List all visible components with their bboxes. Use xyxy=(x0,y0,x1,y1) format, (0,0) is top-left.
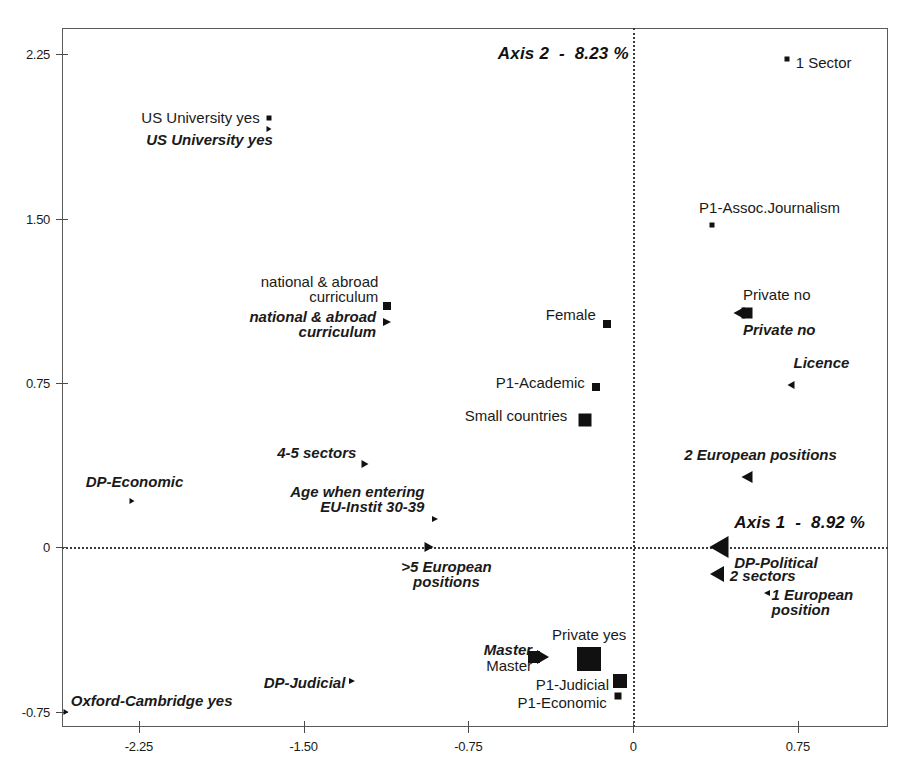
axis-title: Axis 2 - 8.23 % xyxy=(498,44,629,64)
data-point-label: 1 Sector xyxy=(796,55,852,70)
data-point-label: Oxford-Cambridge yes xyxy=(71,693,233,708)
horizontal-zero-axis-line xyxy=(62,547,888,549)
data-point-label: US University yes xyxy=(141,110,259,125)
data-point-square-marker xyxy=(784,56,789,61)
data-point-label: national & abroad curriculum xyxy=(261,273,379,304)
vertical-zero-axis-line xyxy=(633,28,635,727)
data-point-triangle-right-marker xyxy=(424,542,433,552)
data-point-label: Age when entering EU-Instit 30-39 xyxy=(290,484,424,515)
data-point-label: DP-Judicial xyxy=(264,676,346,691)
x-axis-tick-label: -1.50 xyxy=(290,739,318,754)
data-point-label: Licence xyxy=(794,356,850,371)
data-point-label: Master xyxy=(484,643,532,658)
y-axis-tick xyxy=(56,383,68,384)
data-point-triangle-left-marker xyxy=(788,381,795,389)
data-point-label: Master xyxy=(486,658,532,673)
y-axis-tick xyxy=(56,54,68,55)
data-point-label: 2 sectors xyxy=(730,568,796,583)
x-axis-tick xyxy=(633,721,634,733)
data-point-label: P1-Judicial xyxy=(536,678,609,693)
data-point-label: P1-Economic xyxy=(518,695,607,710)
data-point-square-marker xyxy=(613,674,627,688)
x-axis-tick-label: -0.75 xyxy=(454,739,482,754)
data-point-label: >5 European positions xyxy=(401,558,491,589)
data-point-square-marker xyxy=(603,320,611,328)
x-axis-tick-label: 0 xyxy=(630,739,637,754)
y-axis-tick xyxy=(56,219,68,220)
x-axis-tick xyxy=(139,721,140,733)
data-point-triangle-left-marker xyxy=(710,566,724,582)
data-point-label: Private no xyxy=(743,323,816,338)
data-point-square-marker xyxy=(578,414,591,427)
data-point-label: 2 European positions xyxy=(684,448,837,463)
data-point-triangle-right-marker xyxy=(362,460,369,468)
data-point-label: 4-5 sectors xyxy=(277,445,356,460)
data-point-label: Private yes xyxy=(552,627,626,642)
data-point-square-marker xyxy=(383,302,391,310)
data-point-square-marker xyxy=(614,693,621,700)
data-point-square-marker xyxy=(266,115,271,120)
data-point-label: Small countries xyxy=(465,408,568,423)
data-point-triangle-right-marker xyxy=(349,678,355,684)
x-axis-tick-label: 0.75 xyxy=(786,739,810,754)
y-axis-tick-label: 0 xyxy=(8,540,50,555)
data-point-triangle-left-marker xyxy=(709,536,728,558)
data-point-square-marker xyxy=(592,383,600,391)
data-point-triangle-right-marker xyxy=(64,709,69,715)
data-point-label: 1 European position xyxy=(772,587,854,618)
data-point-label: Private no xyxy=(743,288,811,303)
y-axis-tick-label: 0.75 xyxy=(8,375,50,390)
data-point-label: P1-Academic xyxy=(496,375,585,390)
data-point-square-marker xyxy=(577,647,601,671)
data-point-triangle-right-marker xyxy=(130,498,135,504)
x-axis-tick xyxy=(798,721,799,733)
y-axis-tick-label: 2.25 xyxy=(8,47,50,62)
data-point-square-marker xyxy=(710,223,715,228)
axis-title: Axis 1 - 8.92 % xyxy=(734,513,865,533)
y-axis-tick-label: -0.75 xyxy=(8,704,50,719)
data-point-label: P1-Assoc.Journalism xyxy=(699,200,840,215)
data-point-triangle-right-marker xyxy=(383,318,391,326)
data-point-label: national & abroad curriculum xyxy=(249,309,376,340)
data-point-triangle-left-marker xyxy=(764,590,770,596)
correspondence-analysis-biplot: -2.25-1.50-0.7500.752.251.500.750-0.75 1… xyxy=(0,0,914,780)
data-point-triangle-right-marker xyxy=(432,516,438,522)
data-point-triangle-left-marker xyxy=(742,471,753,483)
y-axis-tick-label: 1.50 xyxy=(8,211,50,226)
data-point-label: Female xyxy=(546,307,596,322)
data-point-triangle-left-marker xyxy=(733,307,744,319)
data-point-label: US University yes xyxy=(146,132,273,147)
x-axis-tick-label: -2.25 xyxy=(125,739,153,754)
y-axis-tick xyxy=(56,547,68,548)
x-axis-tick xyxy=(468,721,469,733)
x-axis-tick xyxy=(304,721,305,733)
data-point-label: DP-Economic xyxy=(86,474,184,489)
